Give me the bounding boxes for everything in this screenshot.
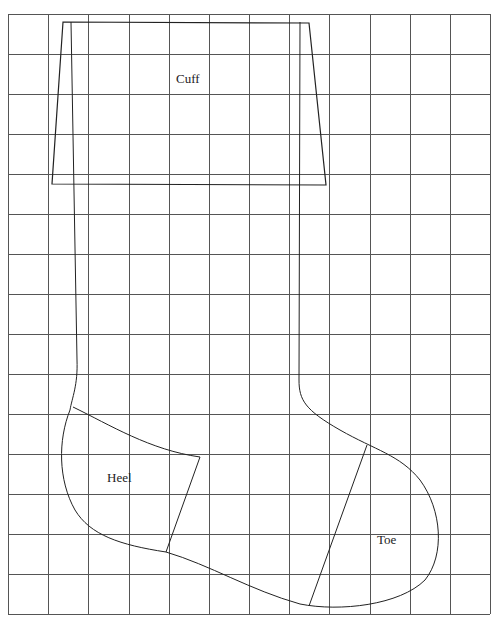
pattern-grid [8, 14, 491, 615]
cuff-piece [52, 22, 326, 185]
heel-seam [73, 407, 200, 552]
toe-seam [309, 445, 367, 606]
toe-label: Toe [377, 532, 396, 548]
heel-label: Heel [107, 470, 132, 486]
cuff-label: Cuff [176, 71, 200, 87]
stocking-pattern-diagram [0, 0, 495, 617]
